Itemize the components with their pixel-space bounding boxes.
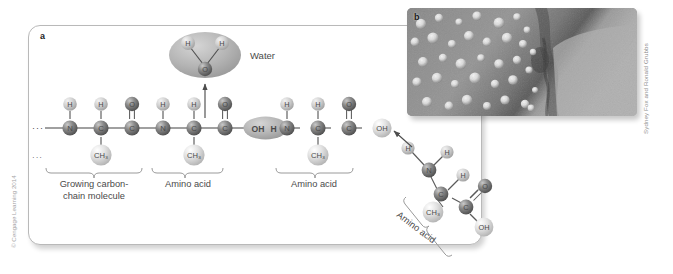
reaction-site-oh-label: OH <box>252 124 265 134</box>
water-h-right-label: H <box>219 39 224 48</box>
incoming-alpha-c-label: C <box>438 190 444 199</box>
atom-label-o: O <box>222 100 228 109</box>
atom-label-o: O <box>346 100 352 109</box>
figure-root: a <box>0 0 673 274</box>
atom-label-c: C <box>98 124 104 133</box>
copyright-notice: © Cengage Learning 2014 <box>10 234 125 248</box>
reaction-site-h-label: H <box>270 124 276 134</box>
atom-label-ch3: CH₃ <box>94 151 108 160</box>
atom-label-o: O <box>129 100 135 109</box>
group-braces <box>46 168 353 178</box>
bracket-continuation-ellipsis: ··· <box>32 153 43 162</box>
atom-label-h: H <box>315 100 320 109</box>
panel-b-label: b <box>414 12 420 22</box>
water-o-label: O <box>202 65 208 74</box>
atom-label-c: C <box>129 124 135 133</box>
upper-substituent-atoms: H H O H H O H H O <box>63 97 356 111</box>
water-h-left-label: H <box>185 39 190 48</box>
panel-b-micrograph <box>407 8 637 116</box>
incoming-o-label: O <box>482 182 488 191</box>
atom-label-ch3: CH₃ <box>311 151 325 160</box>
methyl-groups: CH₃ CH₃ CH₃ <box>90 144 328 165</box>
amino-acid-2-label: Amino acid <box>291 179 337 189</box>
growing-chain-label-line2: chain molecule <box>63 191 125 201</box>
incoming-oh-label: OH <box>478 223 489 232</box>
atom-label-ch3: CH₃ <box>187 151 201 160</box>
incoming-ch3-label: CH₃ <box>426 208 440 217</box>
atom-label-h: H <box>191 100 196 109</box>
photo-credit: Sydney Fox and Ronald Grubbs <box>642 120 673 134</box>
atom-label-oh: OH <box>376 124 387 133</box>
atom-label-c: C <box>315 124 321 133</box>
atom-label-c: C <box>222 124 228 133</box>
incoming-h-side-label: H <box>460 171 465 180</box>
atom-label-n: N <box>284 124 290 133</box>
incoming-n-label: N <box>426 166 431 175</box>
atom-label-n: N <box>160 124 166 133</box>
atom-label-h: H <box>160 100 165 109</box>
atom-label-h: H <box>98 100 103 109</box>
water-label: Water <box>250 50 275 61</box>
atom-label-c: C <box>191 124 197 133</box>
atom-label-c: C <box>346 124 352 133</box>
incoming-carboxyl-c-label: C <box>463 203 469 212</box>
micrograph-image <box>407 8 637 116</box>
chain-continuation-ellipsis: ··· <box>32 123 44 133</box>
atom-label-h: H <box>67 100 72 109</box>
incoming-amino-acid: H H N H C CH₃ C O OH Amino acid <box>394 131 493 256</box>
growing-chain-label-line1: Growing carbon- <box>60 179 129 189</box>
atom-label-n: N <box>67 124 73 133</box>
atom-label-h: H <box>284 100 289 109</box>
amino-acid-1-label: Amino acid <box>165 179 211 189</box>
incoming-h-top-right-label: H <box>444 148 449 157</box>
